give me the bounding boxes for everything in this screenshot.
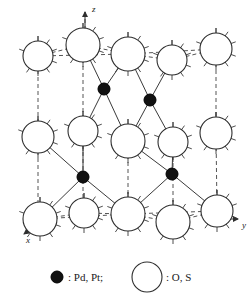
axis-label-x: x (25, 235, 30, 245)
atom-open-circle (68, 116, 98, 146)
atom-filled-circle (98, 83, 110, 95)
atom-chalcogen (197, 190, 236, 232)
atom-layer (18, 23, 236, 244)
atom-chalcogen (64, 111, 102, 151)
atom-open-circle (23, 202, 57, 236)
legend-open-circle-icon (132, 262, 162, 292)
atom-open-circle (111, 197, 145, 231)
atom-chalcogen (196, 28, 235, 70)
atom-open-circle (200, 33, 232, 65)
atom-chalcogen (154, 122, 192, 162)
atom-open-circle (158, 127, 188, 157)
atom-chalcogen (19, 36, 57, 76)
atom-chalcogen (107, 192, 148, 236)
axis-label-z: z (91, 4, 96, 14)
atom-open-circle (111, 37, 145, 71)
atom-open-circle (201, 195, 233, 227)
atom-chalcogen (62, 23, 103, 67)
atom-open-circle (156, 205, 190, 239)
legend-filled-circle-icon (51, 271, 63, 283)
atom-chalcogen (18, 116, 57, 158)
atom-open-circle (157, 45, 187, 75)
legend-layer: : Pd, Pt;: O, S (51, 262, 191, 292)
atom-chalcogen (153, 40, 191, 80)
atom-open-circle (200, 117, 232, 149)
crystal-structure-diagram: zyx : Pd, Pt;: O, S (0, 0, 252, 304)
atom-open-circle (111, 124, 145, 158)
crystal-structure-figure: zyx : Pd, Pt;: O, S (0, 0, 252, 304)
atom-open-circle (69, 198, 99, 228)
atom-filled-circle (77, 171, 89, 183)
atom-chalcogen (196, 112, 235, 154)
atom-filled-circle (166, 168, 178, 180)
atom-chalcogen (65, 193, 103, 233)
legend-label-1: : O, S (166, 271, 191, 283)
atom-open-circle (66, 28, 100, 62)
atom-chalcogen (107, 32, 148, 76)
atom-chalcogen (152, 200, 193, 244)
legend-label-0: : Pd, Pt; (68, 271, 103, 283)
atom-chalcogen (107, 119, 148, 163)
atom-filled-circle (144, 94, 156, 106)
axis-label-y: y (241, 220, 246, 230)
atom-open-circle (22, 121, 54, 153)
atom-open-circle (23, 41, 53, 71)
